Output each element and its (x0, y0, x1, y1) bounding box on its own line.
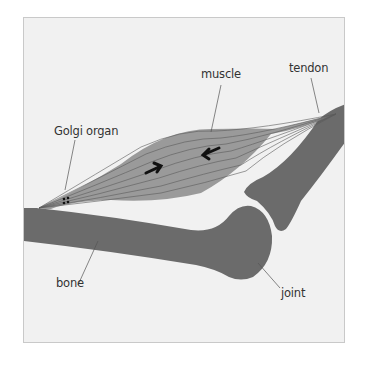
label-bone: bone (56, 276, 84, 290)
label-joint: joint (281, 286, 305, 300)
diagram-frame: muscle tendon Golgi organ bone joint (23, 17, 345, 343)
label-golgi-organ: Golgi organ (54, 124, 118, 138)
label-muscle: muscle (201, 67, 241, 81)
bone-shape (24, 206, 272, 280)
label-tendon: tendon (289, 61, 328, 75)
